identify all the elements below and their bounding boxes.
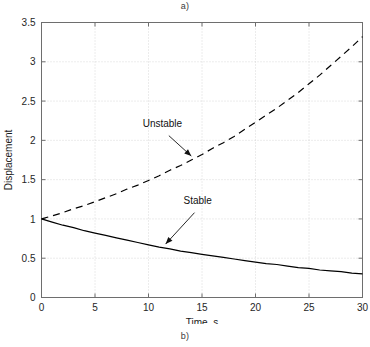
annotation-label-stable: Stable <box>184 195 213 206</box>
x-axis-tick-label: 30 <box>357 302 369 313</box>
y-axis-title: Displacement <box>3 129 14 190</box>
y-axis-tick-label: 0.5 <box>22 253 36 264</box>
x-axis-tick-label: 10 <box>143 302 155 313</box>
y-axis-tick-label: 1 <box>30 214 36 225</box>
x-axis-tick-label: 20 <box>250 302 262 313</box>
plot-frame <box>42 23 363 298</box>
x-axis-title: Time, s <box>186 317 218 325</box>
y-axis-tick-label: 2.5 <box>22 96 36 107</box>
y-axis-tick-label: 2 <box>30 135 36 146</box>
y-axis-tick-label: 3 <box>30 56 36 67</box>
y-axis-tick-label: 1.5 <box>22 174 36 185</box>
chart-plot-area: 00.511.522.533.5051015202530Time, sDispl… <box>0 14 370 324</box>
x-axis-tick-label: 0 <box>39 302 45 313</box>
annotation-label-unstable: Unstable <box>143 118 183 129</box>
figure-panel: a) 00.511.522.533.5051015202530Time, sDi… <box>0 0 370 347</box>
x-axis-tick-label: 25 <box>303 302 315 313</box>
line-chart: 00.511.522.533.5051015202530Time, sDispl… <box>0 14 370 324</box>
figure-label-bottom: b) <box>0 331 370 341</box>
x-axis-tick-label: 5 <box>92 302 98 313</box>
y-axis-tick-label: 0 <box>30 292 36 303</box>
y-axis-tick-label: 3.5 <box>22 17 36 28</box>
x-axis-tick-label: 15 <box>196 302 208 313</box>
figure-label-top: a) <box>0 1 370 11</box>
